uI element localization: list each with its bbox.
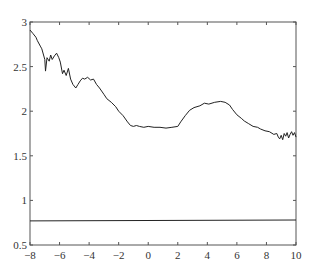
y-tick-label: 0.5 <box>13 239 27 251</box>
x-axis: −8−6−4−20246810 <box>24 22 302 261</box>
x-tick-label: 2 <box>175 249 181 261</box>
x-tick-label: 4 <box>205 249 211 261</box>
x-tick-label: −4 <box>83 249 95 261</box>
axes-frame <box>30 22 296 245</box>
y-tick-label: 2.5 <box>13 61 27 73</box>
line-chart: −8−6−4−20246810 0.511.522.53 <box>0 0 316 278</box>
y-tick-label: 1 <box>22 194 28 206</box>
series-line-0 <box>30 30 296 140</box>
y-axis: 0.511.522.53 <box>13 16 296 251</box>
x-tick-label: −6 <box>54 249 66 261</box>
plot-area <box>30 22 296 245</box>
series-line-1 <box>30 220 296 221</box>
x-tick-label: 10 <box>291 249 303 261</box>
x-tick-label: 0 <box>145 249 151 261</box>
x-tick-label: 8 <box>264 249 270 261</box>
x-tick-label: −2 <box>113 249 125 261</box>
y-tick-label: 2 <box>22 105 28 117</box>
y-tick-label: 3 <box>22 16 28 28</box>
y-tick-label: 1.5 <box>13 150 27 162</box>
x-tick-label: 6 <box>234 249 240 261</box>
